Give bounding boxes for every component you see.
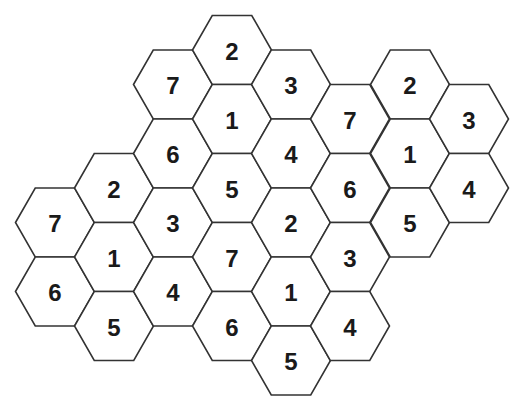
hex-number: 5: [284, 348, 297, 375]
hex-number: 7: [343, 107, 356, 134]
hex-number: 5: [225, 176, 238, 203]
hex-number: 1: [284, 279, 297, 306]
hex-number: 4: [462, 176, 476, 203]
hex-number: 1: [225, 107, 238, 134]
hex-number: 2: [225, 38, 238, 65]
hex-number: 7: [48, 210, 61, 237]
hex-number: 3: [343, 245, 356, 272]
hex-number: 6: [343, 176, 356, 203]
hex-grid-board: 7621576342157634215763421534: [0, 0, 526, 411]
hex-number: 3: [462, 107, 475, 134]
hex-number: 7: [225, 245, 238, 272]
hex-number: 6: [166, 141, 179, 168]
hex-number: 4: [284, 141, 298, 168]
hex-number: 2: [107, 176, 120, 203]
hex-number: 1: [107, 245, 120, 272]
hex-number: 7: [166, 72, 179, 99]
hex-number: 2: [284, 210, 297, 237]
hex-number: 6: [225, 314, 238, 341]
hex-number: 6: [48, 279, 61, 306]
hex-number: 4: [343, 314, 357, 341]
hex-number: 2: [403, 72, 416, 99]
hex-number: 4: [166, 279, 180, 306]
hex-number: 3: [166, 210, 179, 237]
hex-number: 1: [403, 141, 416, 168]
hex-number: 5: [107, 314, 120, 341]
hex-number: 3: [284, 72, 297, 99]
hex-number: 5: [403, 210, 416, 237]
